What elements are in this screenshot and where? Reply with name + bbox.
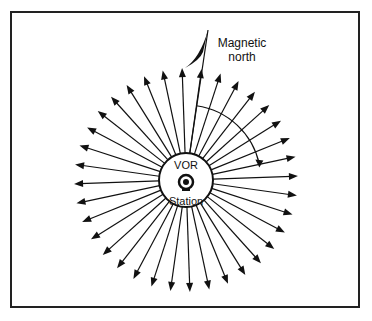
radial-line xyxy=(212,158,289,174)
station-label: Station xyxy=(160,194,212,208)
arrowhead-icon xyxy=(289,173,298,180)
radial-line xyxy=(182,74,185,153)
radial-line xyxy=(92,130,162,167)
arrowhead-icon xyxy=(144,76,151,86)
radial-line xyxy=(196,205,226,278)
arrowhead-icon xyxy=(117,259,125,268)
arrowhead-icon xyxy=(204,280,211,290)
bearing-arc xyxy=(196,106,259,165)
arrowhead-icon xyxy=(82,215,92,222)
arrowhead-icon xyxy=(161,70,168,80)
arrowhead-icon xyxy=(87,127,97,134)
radial-line xyxy=(213,176,292,179)
arrowhead-icon xyxy=(186,283,193,292)
radial-line xyxy=(82,186,159,202)
arrowhead-icon xyxy=(151,277,158,287)
arrowhead-icon xyxy=(74,180,83,187)
arrowhead-icon xyxy=(221,274,228,284)
arrowhead-icon xyxy=(280,138,290,145)
arrowhead-icon xyxy=(133,269,140,279)
magnetic-north-line xyxy=(190,30,208,153)
arrowhead-icon xyxy=(283,209,293,216)
arrowhead-icon xyxy=(288,191,297,198)
arrowhead-icon xyxy=(215,73,222,83)
radial-line xyxy=(88,190,161,220)
radial-line xyxy=(187,207,190,286)
north-flag-icon xyxy=(185,30,208,68)
arrowhead-icon xyxy=(91,232,100,240)
radial-line xyxy=(164,76,180,153)
arrowhead-icon xyxy=(75,162,84,169)
arrowhead-icon xyxy=(265,241,274,249)
arrowhead-icon xyxy=(231,81,238,91)
radial-line xyxy=(210,193,280,230)
radial-line xyxy=(136,204,173,274)
radial-line xyxy=(199,86,236,156)
arrowhead-icon xyxy=(197,69,204,78)
arrowhead-icon xyxy=(79,145,89,152)
arrowhead-icon xyxy=(286,155,296,162)
vor-label: VOR xyxy=(166,158,206,172)
arrowhead-icon xyxy=(238,265,246,274)
radial-line xyxy=(211,140,284,170)
radial-line xyxy=(146,82,176,155)
magnetic-north-label: Magnetic north xyxy=(212,36,272,64)
radial-line xyxy=(80,181,159,184)
arrowhead-icon xyxy=(168,282,175,291)
arrowhead-icon xyxy=(271,121,280,129)
arrowhead-icon xyxy=(179,68,186,77)
arrowhead-icon xyxy=(275,225,285,232)
radial-line xyxy=(96,194,163,236)
arrowhead-icon xyxy=(127,85,135,94)
arrowhead-icon xyxy=(76,198,86,205)
arrowhead-icon xyxy=(247,92,255,101)
radial-line xyxy=(130,90,172,157)
arrowhead-icon xyxy=(98,111,107,119)
radial-line xyxy=(192,206,208,283)
radial-line xyxy=(200,203,242,270)
